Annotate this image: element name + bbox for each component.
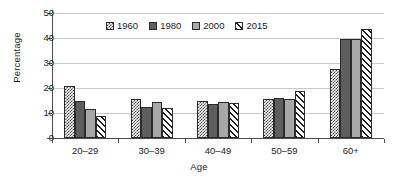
bar-2000-60+ [351, 39, 362, 138]
legend-swatch-icon [235, 22, 243, 30]
x-tick-mark [52, 139, 53, 143]
legend-item-2000: 2000 [192, 21, 224, 30]
legend-label: 1960 [117, 21, 138, 30]
y-tick-label: 30 [32, 58, 54, 67]
category-label: 20–29 [55, 145, 115, 156]
legend-swatch-icon [106, 22, 114, 30]
gridline [52, 13, 384, 14]
bar-chart: Percentage 01020304050 20–2930–3940–4950… [0, 0, 398, 184]
legend-swatch-icon [149, 22, 157, 30]
category-label: 30–39 [122, 145, 182, 156]
bar-1960-60+ [330, 69, 341, 138]
bar-1980-40_49 [208, 104, 219, 138]
category-label: 60+ [321, 145, 381, 156]
y-tick-label: 20 [32, 83, 54, 92]
y-tick-label: 0 [32, 133, 54, 142]
x-axis-line [47, 138, 384, 139]
bar-1960-20_29 [64, 86, 75, 139]
legend-label: 2015 [246, 21, 267, 30]
gridline [52, 38, 384, 39]
bar-2000-30_39 [152, 102, 163, 138]
legend-item-1980: 1980 [149, 21, 181, 30]
bar-2015-40_49 [229, 103, 240, 138]
bar-2000-50_59 [284, 99, 295, 138]
legend-label: 2000 [203, 21, 224, 30]
x-tick-mark [318, 139, 319, 143]
x-tick-mark [118, 139, 119, 143]
bar-1980-60+ [340, 39, 351, 138]
category-label: 50–59 [254, 145, 314, 156]
bar-2015-60+ [361, 29, 372, 138]
bar-1980-50_59 [274, 98, 285, 138]
plot-area [52, 13, 384, 138]
bar-2015-20_29 [96, 116, 107, 139]
gridline [52, 63, 384, 64]
bar-2015-30_39 [162, 108, 173, 138]
y-tick-label: 10 [32, 108, 54, 117]
legend-label: 1980 [160, 21, 181, 30]
category-label: 40–49 [188, 145, 248, 156]
bar-2000-20_29 [85, 109, 96, 138]
bar-1960-40_49 [197, 101, 208, 139]
x-tick-mark [251, 139, 252, 143]
bar-1980-20_29 [75, 101, 86, 139]
bar-2000-40_49 [218, 102, 229, 138]
x-axis-title: Age [0, 161, 398, 172]
bar-1960-30_39 [131, 99, 142, 138]
legend-item-1960: 1960 [106, 21, 138, 30]
chart-legend: 1960198020002015 [106, 21, 268, 30]
bar-1960-50_59 [263, 99, 274, 138]
y-tick-label: 50 [32, 8, 54, 17]
bar-1980-30_39 [141, 107, 152, 138]
x-tick-mark [384, 139, 385, 143]
legend-item-2015: 2015 [235, 21, 267, 30]
y-axis-title: Percentage [11, 13, 22, 103]
legend-swatch-icon [192, 22, 200, 30]
bar-2015-50_59 [295, 91, 306, 139]
x-tick-mark [185, 139, 186, 143]
y-tick-label: 40 [32, 33, 54, 42]
